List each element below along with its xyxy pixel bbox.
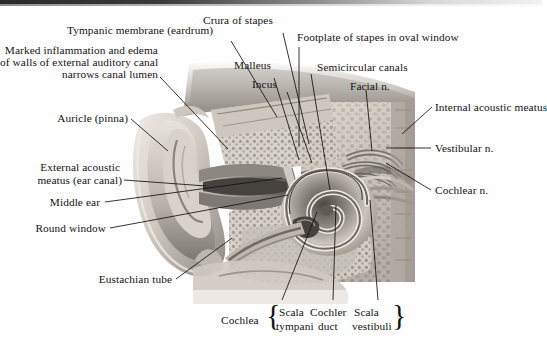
label-marked-inflammation-line1: Marked inflammation and edema bbox=[0, 44, 158, 57]
label-scala-vestibuli-line1: Scala bbox=[354, 306, 379, 319]
label-scala-tympani-line1: Scala bbox=[279, 306, 304, 319]
label-scala-tympani-line2: tympani bbox=[276, 320, 314, 333]
label-internal-acoustic-meatus: Internal acoustic meatus bbox=[435, 101, 547, 114]
ear-cross-section-illustration bbox=[133, 62, 417, 308]
label-external-acoustic-meatus-line1: External acoustic bbox=[0, 161, 120, 174]
label-external-acoustic-meatus-line2: meatus (ear canal) bbox=[0, 174, 122, 187]
label-marked-inflammation-line3: narrows canal lumen bbox=[0, 68, 158, 81]
brace-close: } bbox=[392, 300, 406, 330]
label-cochlear-n: Cochlear n. bbox=[435, 184, 488, 197]
label-semicircular-canals: Semicircular canals bbox=[317, 61, 408, 74]
label-malleus: Malleus bbox=[234, 59, 271, 72]
label-auricle: Auricle (pinna) bbox=[0, 112, 128, 125]
label-eustachian-tube: Eustachian tube bbox=[0, 273, 172, 286]
label-scala-vestibuli-line2: vestibuli bbox=[352, 320, 392, 333]
label-facial-n: Facial n. bbox=[350, 80, 390, 93]
label-cochlea: Cochlea bbox=[221, 314, 259, 327]
label-incus: Incus bbox=[252, 78, 277, 91]
label-vestibular-n: Vestibular n. bbox=[435, 142, 493, 155]
label-marked-inflammation-line2: of walls of external auditory canal bbox=[0, 56, 158, 69]
label-round-window: Round window bbox=[0, 222, 106, 235]
label-cochlear-duct-line1: Cochler bbox=[310, 306, 346, 319]
label-middle-ear: Middle ear bbox=[0, 196, 100, 209]
label-crura-of-stapes: Crura of stapes bbox=[203, 14, 273, 27]
label-footplate-of-stapes: Footplate of stapes in oval window bbox=[297, 31, 459, 44]
label-cochlear-duct-line2: duct bbox=[318, 320, 338, 333]
scan-edge-top-soft bbox=[0, 4, 542, 6]
label-tympanic-membrane: Tympanic membrane (eardrum) bbox=[67, 24, 213, 37]
